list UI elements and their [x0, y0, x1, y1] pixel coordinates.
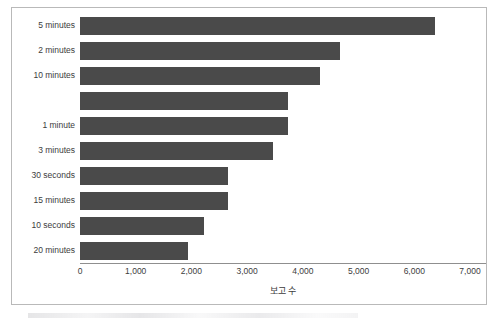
bar-chart-figure: 5 minutes2 minutes10 minutes1 minute3 mi…: [11, 7, 487, 305]
bar-row: 10 seconds: [12, 213, 486, 238]
x-axis-tick-label: 3,000: [237, 266, 258, 276]
category-label-wrap: 10 minutes: [12, 63, 80, 88]
bar: [80, 117, 288, 135]
category-label: 2 minutes: [12, 38, 80, 63]
category-label-wrap: 3 minutes: [12, 138, 80, 163]
bar: [80, 67, 320, 85]
bar-row: 1 minute: [12, 113, 486, 138]
category-label: 10 minutes: [12, 63, 80, 88]
category-label: 20 minutes: [12, 238, 80, 263]
x-axis-tick-label: 4,000: [292, 266, 313, 276]
bar: [80, 217, 204, 235]
bar-row: [12, 88, 486, 113]
category-label-wrap: 10 seconds: [12, 213, 80, 238]
bar-row: 10 minutes: [12, 63, 486, 88]
bar: [80, 42, 340, 60]
category-label: 3 minutes: [12, 138, 80, 163]
bar-row: 30 seconds: [12, 163, 486, 188]
bar: [80, 17, 435, 35]
category-label-wrap: 1 minute: [12, 113, 80, 138]
category-label: [12, 88, 80, 113]
category-label-wrap: [12, 88, 80, 113]
category-label-wrap: 2 minutes: [12, 38, 80, 63]
bar-row: 2 minutes: [12, 38, 486, 63]
x-axis-tick-label: 0: [78, 266, 83, 276]
x-axis-tick-label: 7,000: [459, 266, 480, 276]
x-axis-title: 보고 수: [80, 284, 486, 297]
page-bottom-artifact: [28, 313, 358, 318]
category-label: 30 seconds: [12, 163, 80, 188]
bar-row: 3 minutes: [12, 138, 486, 163]
bar-row: 15 minutes: [12, 188, 486, 213]
category-label-wrap: 15 minutes: [12, 188, 80, 213]
bar: [80, 192, 228, 210]
bar: [80, 242, 188, 260]
x-axis-tick-label: 5,000: [348, 266, 369, 276]
x-axis-tick-labels: 01,0002,0003,0004,0005,0006,0007,000: [12, 266, 486, 280]
bar: [80, 167, 228, 185]
category-label-wrap: 30 seconds: [12, 163, 80, 188]
category-label-wrap: 20 minutes: [12, 238, 80, 263]
x-axis-tick-label: 6,000: [404, 266, 425, 276]
category-label: 10 seconds: [12, 213, 80, 238]
category-label: 15 minutes: [12, 188, 80, 213]
x-axis-line: [80, 263, 486, 264]
bar: [80, 92, 288, 110]
category-label: 5 minutes: [12, 13, 80, 38]
category-label: 1 minute: [12, 113, 80, 138]
bar-row: 5 minutes: [12, 13, 486, 38]
x-axis-tick-label: 2,000: [181, 266, 202, 276]
bar: [80, 142, 273, 160]
x-axis-tick-label: 1,000: [125, 266, 146, 276]
plot-area: 5 minutes2 minutes10 minutes1 minute3 mi…: [12, 8, 486, 304]
bar-row: 20 minutes: [12, 238, 486, 263]
category-label-wrap: 5 minutes: [12, 13, 80, 38]
